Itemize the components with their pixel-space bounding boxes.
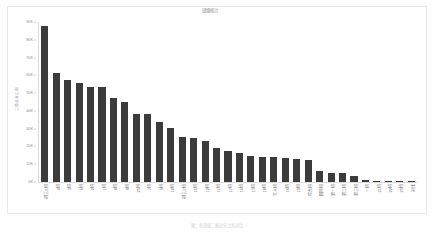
y-tick-mark-9 bbox=[34, 22, 36, 23]
bar[interactable] bbox=[350, 176, 357, 182]
y-tick-mark-5 bbox=[34, 93, 36, 94]
y-tick-label-5: 50K bbox=[26, 91, 33, 95]
bar[interactable] bbox=[224, 151, 231, 182]
x-tick-label-5: 1班 bbox=[103, 184, 107, 190]
x-tick-label-7: 8班 bbox=[126, 184, 130, 190]
x-tick-label-18: 13班 bbox=[252, 184, 256, 192]
x-tick-label-14: 12班 bbox=[206, 184, 210, 192]
bar[interactable] bbox=[259, 157, 266, 182]
x-tick-label-15: 11班 bbox=[217, 184, 221, 192]
y-tick-label-8: 80K bbox=[26, 38, 33, 42]
y-tick-label-9: 90K bbox=[26, 20, 33, 24]
bar[interactable] bbox=[202, 141, 209, 182]
x-tick-label-11: 10班 bbox=[171, 184, 175, 192]
bar[interactable] bbox=[236, 153, 243, 182]
bar[interactable] bbox=[144, 114, 151, 182]
x-tick-label-19: 18班 bbox=[263, 184, 267, 192]
bar[interactable] bbox=[282, 158, 289, 182]
bar[interactable] bbox=[339, 173, 346, 182]
bar[interactable] bbox=[98, 87, 105, 182]
bar[interactable] bbox=[270, 157, 277, 182]
bar[interactable] bbox=[41, 26, 48, 182]
x-tick-label-2: 3班 bbox=[68, 184, 72, 190]
x-tick-label-6: 8班 bbox=[114, 184, 118, 190]
bar[interactable] bbox=[362, 180, 369, 182]
x-tick-label-30: 22班 bbox=[389, 184, 393, 192]
x-tick-label-29: 21班 bbox=[378, 184, 382, 192]
bar[interactable] bbox=[167, 128, 174, 182]
x-tick-label-8: 25班 bbox=[137, 184, 141, 192]
bar[interactable] bbox=[76, 83, 83, 182]
y-axis-tick-labels: 0K10K20K30K40K50K60K70K80K90K bbox=[0, 22, 36, 182]
x-tick-label-20: 艺人班 bbox=[274, 184, 278, 196]
bar[interactable] bbox=[110, 98, 117, 182]
bar[interactable] bbox=[133, 114, 140, 182]
x-tick-label-10: 9班 bbox=[160, 184, 164, 190]
y-tick-mark-4 bbox=[34, 110, 36, 111]
bar[interactable] bbox=[305, 160, 312, 182]
bar[interactable] bbox=[190, 138, 197, 182]
x-tick-label-3: 6班 bbox=[80, 184, 84, 190]
x-tick-label-21: 16班 bbox=[286, 184, 290, 192]
y-tick-label-3: 30K bbox=[26, 127, 33, 131]
x-tick-label-27: 第三班 bbox=[355, 184, 359, 196]
plot-area bbox=[38, 22, 417, 183]
x-tick-label-0: 初三/1班 bbox=[45, 184, 49, 199]
x-tick-label-32: 对比 bbox=[412, 184, 416, 192]
x-tick-label-25: 第一班 bbox=[332, 184, 336, 196]
x-tick-label-1: 4班 bbox=[57, 184, 61, 190]
bar[interactable] bbox=[408, 181, 415, 182]
bar-series bbox=[39, 22, 417, 182]
chart-title: 班级统计 bbox=[0, 7, 420, 13]
y-tick-mark-3 bbox=[34, 128, 36, 129]
bar[interactable] bbox=[213, 148, 220, 182]
y-tick-mark-2 bbox=[34, 146, 36, 147]
x-tick-label-12: 初三/7班 bbox=[183, 184, 187, 199]
bar[interactable] bbox=[156, 122, 163, 182]
chart-figure: 班级统计 二模总分之和 0K10K20K30K40K50K60K70K80K90… bbox=[0, 0, 434, 240]
y-tick-mark-6 bbox=[34, 75, 36, 76]
x-tick-label-4: 2班 bbox=[91, 184, 95, 190]
bar[interactable] bbox=[179, 137, 186, 182]
bar[interactable] bbox=[64, 80, 71, 182]
bar[interactable] bbox=[373, 181, 380, 182]
bar[interactable] bbox=[293, 159, 300, 182]
y-tick-label-2: 20K bbox=[26, 144, 33, 148]
x-tick-label-9: 7班 bbox=[148, 184, 152, 190]
bar[interactable] bbox=[87, 87, 94, 182]
x-tick-label-26: 第二班 bbox=[343, 184, 347, 196]
x-tick-label-23: 综合班 bbox=[309, 184, 313, 196]
x-tick-label-31: 23班 bbox=[400, 184, 404, 192]
bar[interactable] bbox=[121, 102, 128, 182]
y-tick-label-6: 60K bbox=[26, 73, 33, 77]
x-tick-label-16: 17班 bbox=[229, 184, 233, 192]
bar[interactable] bbox=[53, 73, 60, 182]
y-tick-mark-0 bbox=[34, 182, 36, 183]
bar[interactable] bbox=[328, 173, 335, 182]
bar[interactable] bbox=[385, 181, 392, 182]
bar[interactable] bbox=[316, 171, 323, 182]
y-tick-mark-7 bbox=[34, 57, 36, 58]
x-axis-tick-labels: 初三/1班4班3班6班2班1班8班8班25班7班9班10班初三/7班15班12班… bbox=[38, 183, 416, 223]
x-tick-label-28: 一班 bbox=[366, 184, 370, 192]
y-tick-label-4: 40K bbox=[26, 109, 33, 113]
y-tick-label-0: 0K bbox=[28, 180, 33, 184]
x-tick-label-22: 19班 bbox=[297, 184, 301, 192]
x-tick-label-17: 14班 bbox=[240, 184, 244, 192]
bar[interactable] bbox=[396, 181, 403, 182]
x-tick-label-13: 15班 bbox=[194, 184, 198, 192]
x-tick-label-24: 国际班 bbox=[320, 184, 324, 196]
y-tick-mark-1 bbox=[34, 164, 36, 165]
bar[interactable] bbox=[247, 156, 254, 182]
y-tick-label-7: 70K bbox=[26, 56, 33, 60]
y-tick-label-1: 10K bbox=[26, 162, 33, 166]
y-tick-mark-8 bbox=[34, 39, 36, 40]
figure-caption: 图：各班级二模总分之和对比 bbox=[0, 222, 434, 228]
